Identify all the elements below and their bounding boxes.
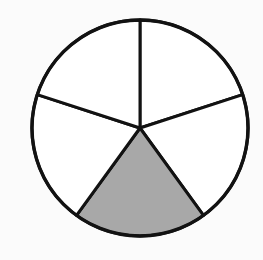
figure-canvas [0,0,263,260]
pie-circle-diagram [0,0,263,260]
